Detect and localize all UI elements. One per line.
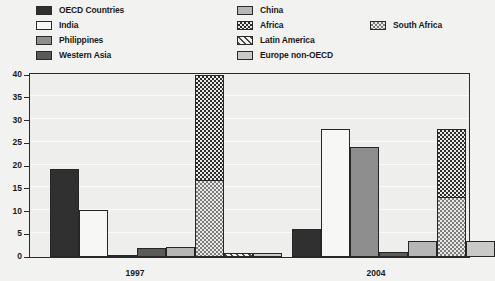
bars-container — [31, 75, 469, 257]
bar-india-2004[interactable] — [321, 129, 350, 256]
y-tick-label: 35 — [2, 93, 22, 102]
y-tick-label: 5 — [2, 229, 22, 238]
bar-latin-america-1997[interactable] — [224, 253, 253, 256]
legend-item-label: Europe non-OECD — [260, 51, 333, 60]
y-tick-label: 40 — [2, 70, 22, 79]
legend-item-label: Africa — [260, 21, 284, 30]
legend-item-europe-non-oecd[interactable]: Europe non-OECD — [237, 49, 333, 62]
bar-segment-south-africa-1997[interactable] — [195, 180, 224, 256]
bar-china-1997[interactable] — [166, 247, 195, 256]
africa-swatch-icon — [237, 21, 253, 30]
legend-item-label: Philippines — [59, 36, 103, 45]
bar-philippines-1997[interactable] — [108, 255, 137, 257]
bar-europe-1997[interactable] — [253, 253, 282, 257]
bar-western-asia-1997[interactable] — [137, 248, 166, 257]
legend-item-china[interactable]: China — [237, 4, 333, 17]
y-tick-label: 10 — [2, 207, 22, 216]
bar-europe-2004[interactable] — [466, 241, 495, 256]
legend-item-south-africa[interactable]: South Africa — [370, 19, 442, 32]
legend-column-right: ChinaAfricaSouth AfricaLatin AmericaEuro… — [237, 4, 333, 64]
legend-column-left: OECD CountriesIndiaPhilippinesWestern As… — [36, 4, 124, 64]
x-axis-group-label: 1997 — [105, 268, 165, 278]
bar-africa-2004[interactable] — [437, 129, 466, 256]
bar-segment-south-africa-2004[interactable] — [437, 197, 466, 256]
legend-item-latin-america[interactable]: Latin America — [237, 34, 333, 47]
philippines-swatch-icon — [36, 36, 52, 45]
legend-item-africa[interactable]: Africa — [237, 19, 333, 32]
bar-india-1997[interactable] — [79, 210, 108, 256]
legend-item-label: India — [59, 21, 78, 30]
legend-item-label: South Africa — [393, 21, 442, 30]
legend-item-india[interactable]: India — [36, 19, 124, 32]
bar-western-asia-2004[interactable] — [379, 252, 408, 257]
legend-item-label: Western Asia — [59, 51, 111, 60]
y-tick-label: 20 — [2, 161, 22, 170]
bar-china-2004[interactable] — [408, 241, 437, 256]
south-africa-swatch-icon — [370, 21, 386, 30]
legend-item-oecd[interactable]: OECD Countries — [36, 4, 124, 17]
legend-item-label: Latin America — [260, 36, 315, 45]
europe-non-oecd-swatch-icon — [237, 51, 253, 60]
legend-item-label: OECD Countries — [59, 6, 124, 15]
bar-africa-1997[interactable] — [195, 75, 224, 257]
y-tick-label: 25 — [2, 138, 22, 147]
bar-oecd-1997[interactable] — [50, 169, 79, 256]
y-tick-label: 15 — [2, 184, 22, 193]
bar-oecd-2004[interactable] — [292, 229, 321, 256]
legend-item-western-asia[interactable]: Western Asia — [36, 49, 124, 62]
plot-area: 0510152025303540 19972004 — [0, 62, 476, 281]
india-swatch-icon — [36, 21, 52, 30]
x-axis-group-label: 2004 — [346, 268, 406, 278]
china-swatch-icon — [237, 6, 253, 15]
western-asia-swatch-icon — [36, 51, 52, 60]
chart-legend: OECD CountriesIndiaPhilippinesWestern As… — [0, 0, 476, 62]
latin-america-swatch-icon — [237, 36, 253, 45]
bar-philippines-2004[interactable] — [350, 147, 379, 256]
legend-item-philippines[interactable]: Philippines — [36, 34, 124, 47]
oecd-swatch-icon — [36, 6, 52, 15]
y-tick-label: 0 — [2, 252, 22, 261]
legend-item-label: China — [260, 6, 283, 15]
y-tick-label: 30 — [2, 116, 22, 125]
